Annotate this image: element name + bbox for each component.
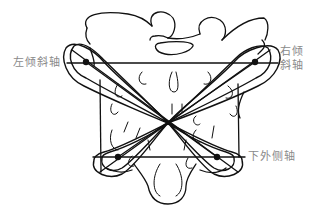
- axis-points: [83, 59, 258, 160]
- sacrum-outline: [86, 12, 268, 204]
- inferior-lateral-axis-label: 下外侧轴: [248, 150, 296, 164]
- oblique-axes: [72, 50, 270, 172]
- right-oblique-axis-label-line1: 右倾: [280, 45, 310, 59]
- center-point: [166, 121, 170, 125]
- right-oblique-axis-label-line2: 斜轴: [280, 59, 310, 73]
- right-inferior-point: [214, 154, 220, 160]
- left-oblique-axis-label: 左倾斜轴: [13, 56, 61, 70]
- right-oblique-axis-label: 右倾 斜轴: [280, 45, 310, 73]
- left-superior-point: [83, 59, 89, 65]
- left-inferior-point: [115, 154, 121, 160]
- sacral-foramina: [110, 72, 237, 196]
- right-superior-point: [252, 59, 258, 65]
- sacrum-diagram: [0, 0, 313, 215]
